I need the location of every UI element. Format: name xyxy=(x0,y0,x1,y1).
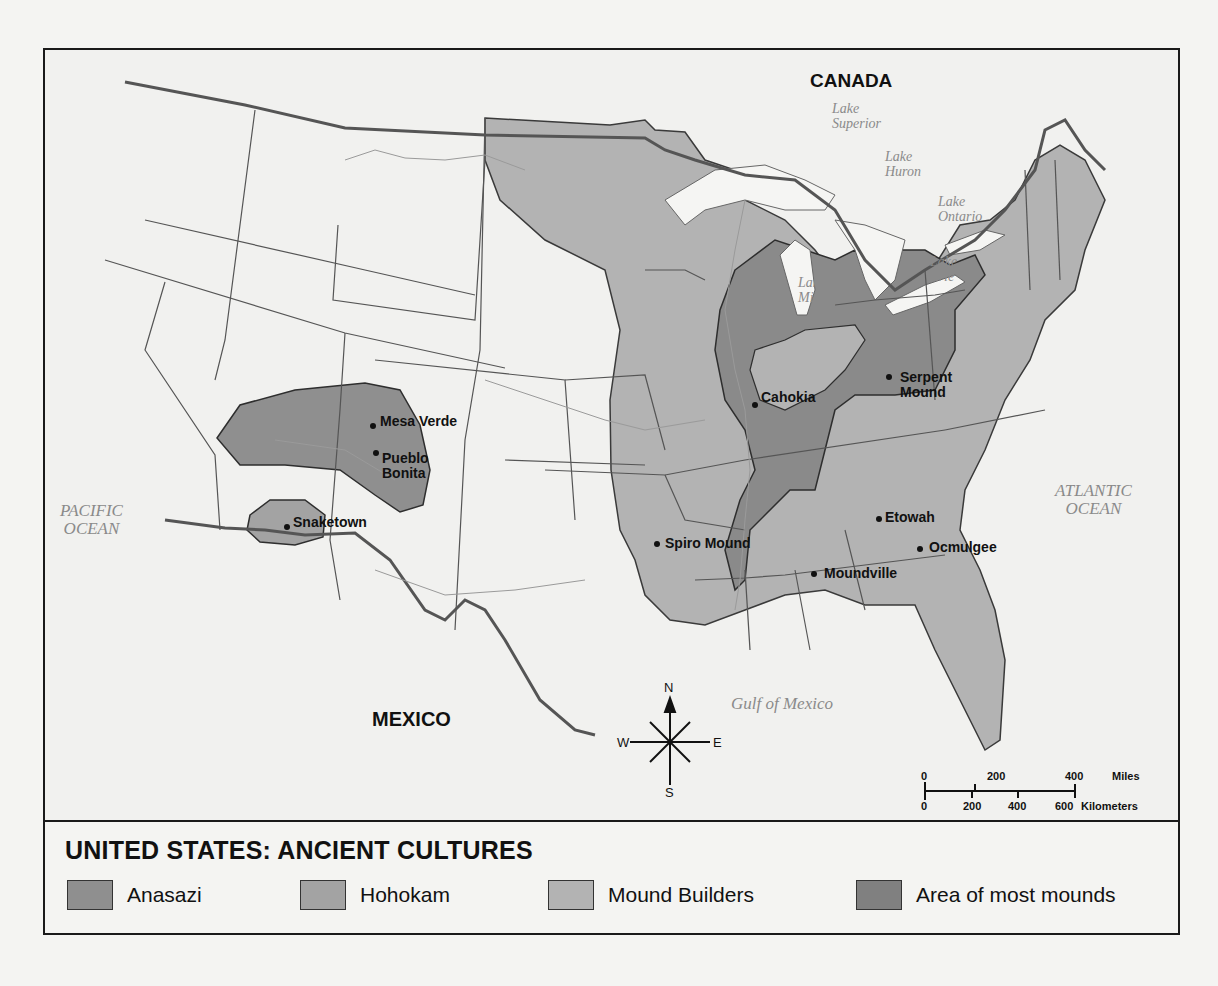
label-lake-ontario: Lake Ontario xyxy=(938,195,982,224)
scale-km-0: 0 xyxy=(921,800,927,812)
site-dot-spiro-mound xyxy=(654,541,660,547)
legend-swatch-anasazi xyxy=(67,880,113,910)
legend-item-anasazi: Anasazi xyxy=(67,879,202,911)
map-frame: CANADA MEXICO PACIFIC OCEAN ATLANTIC OCE… xyxy=(43,48,1180,935)
site-cahokia[interactable]: Cahokia xyxy=(761,390,815,405)
compass-w: W xyxy=(617,735,629,750)
scale-miles-0: 0 xyxy=(921,770,927,782)
label-lake-huron: Lake Huron xyxy=(885,150,921,179)
site-dot-mesa-verde xyxy=(370,423,376,429)
compass-rose xyxy=(630,698,710,785)
legend-swatch-hohokam xyxy=(300,880,346,910)
compass-e: E xyxy=(713,735,722,750)
label-pacific-ocean: PACIFIC OCEAN xyxy=(60,502,123,538)
site-snaketown[interactable]: Snaketown xyxy=(293,515,367,530)
mexico-border xyxy=(165,520,595,735)
anasazi-region xyxy=(217,383,430,512)
site-dot-moundville xyxy=(811,571,817,577)
site-ocmulgee[interactable]: Ocmulgee xyxy=(929,540,997,555)
label-lake-erie: Lake Erie xyxy=(930,255,957,284)
label-atlantic-ocean: ATLANTIC OCEAN xyxy=(1055,482,1132,518)
us-map-graphic xyxy=(45,50,1178,820)
site-dot-snaketown xyxy=(284,524,290,530)
site-dot-serpent-mound xyxy=(886,374,892,380)
compass-s: S xyxy=(665,785,674,800)
site-dot-pueblo-bonita xyxy=(373,450,379,456)
map-title: UNITED STATES: ANCIENT CULTURES xyxy=(65,836,533,865)
site-spiro-mound[interactable]: Spiro Mound xyxy=(665,536,751,551)
map-canvas: CANADA MEXICO PACIFIC OCEAN ATLANTIC OCE… xyxy=(45,50,1178,822)
legend-swatch-mound-builders xyxy=(548,880,594,910)
scale-miles-label: Miles xyxy=(1112,770,1140,782)
site-dot-ocmulgee xyxy=(917,546,923,552)
legend-swatch-most-mounds xyxy=(856,880,902,910)
legend-item-mound-builders: Mound Builders xyxy=(548,879,754,911)
site-pueblo-bonita[interactable]: Pueblo Bonita xyxy=(382,451,429,480)
label-canada: CANADA xyxy=(810,70,892,92)
scale-km-200: 200 xyxy=(963,800,981,812)
scale-miles-400: 400 xyxy=(1065,770,1083,782)
legend-item-most-mounds: Area of most mounds xyxy=(856,879,1116,911)
scale-bar xyxy=(925,782,1075,800)
site-moundville[interactable]: Moundville xyxy=(824,566,897,581)
site-dot-etowah xyxy=(876,516,882,522)
label-gulf-of-mexico: Gulf of Mexico xyxy=(731,695,833,713)
compass-n: N xyxy=(664,680,673,695)
scale-km-400: 400 xyxy=(1008,800,1026,812)
scale-miles-200: 200 xyxy=(987,770,1005,782)
label-lake-michigan: Lake Michigan xyxy=(798,276,852,305)
site-mesa-verde[interactable]: Mesa Verde xyxy=(380,414,457,429)
site-etowah[interactable]: Etowah xyxy=(885,510,935,525)
label-mexico: MEXICO xyxy=(372,708,451,731)
site-serpent-mound[interactable]: Serpent Mound xyxy=(900,370,952,399)
site-dot-cahokia xyxy=(752,402,758,408)
legend-item-hohokam: Hohokam xyxy=(300,879,450,911)
label-lake-superior: Lake Superior xyxy=(832,102,881,131)
legend: UNITED STATES: ANCIENT CULTURES Anasazi … xyxy=(45,822,1178,933)
scale-km-label: Kilometers xyxy=(1081,800,1138,812)
scale-km-600: 600 xyxy=(1055,800,1073,812)
